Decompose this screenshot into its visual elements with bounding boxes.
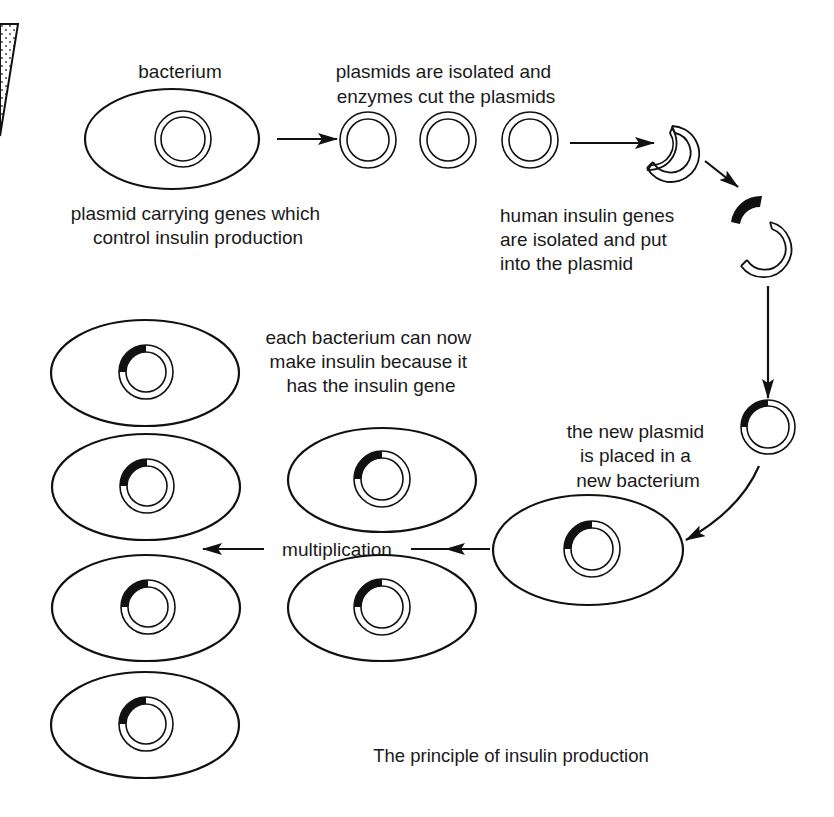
opened-plasmid-icon (741, 222, 791, 277)
insulin-gene-icon (731, 196, 762, 224)
new-plasmid-label: the new plasmid is placed in a new bacte… (567, 421, 710, 491)
daughter-bacterium-3 (52, 555, 240, 661)
plasmids-isolated-label: plasmids are isolated and enzymes cut th… (336, 61, 557, 107)
figure-caption: The principle of insulin production (373, 745, 649, 766)
original-bacterium (85, 89, 259, 189)
isolated-plasmid-2 (420, 112, 476, 168)
daughter-bacterium-5 (288, 428, 476, 532)
cut-plasmid-icon (647, 126, 699, 182)
each-bacterium-label: each bacterium can now make insulin beca… (265, 327, 476, 396)
stippled-fragment (0, 24, 18, 136)
daughter-bacterium-4 (51, 672, 239, 778)
insulin-production-diagram: bacterium plasmid carrying genes which c… (0, 0, 834, 817)
daughter-bacterium-6 (288, 555, 476, 661)
daughter-bacterium-2 (52, 434, 240, 540)
arrow-icon (705, 161, 738, 187)
isolated-plasmid-1 (340, 112, 396, 168)
plasmid-carrying-label: plasmid carrying genes which control ins… (71, 203, 326, 248)
isolated-plasmid-3 (502, 112, 558, 168)
new-bacterium (493, 495, 683, 605)
bacterium-label: bacterium (138, 61, 221, 82)
recombinant-plasmid-icon (741, 400, 795, 454)
human-genes-label: human insulin genes are isolated and put… (500, 205, 680, 274)
daughter-bacterium-1 (51, 320, 239, 426)
